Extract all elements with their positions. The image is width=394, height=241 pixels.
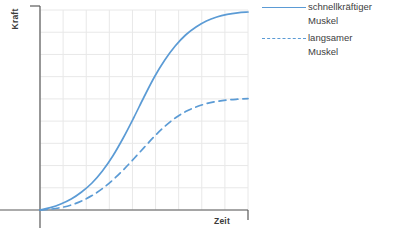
legend-label-fast-muscle-line1: schnellkräftiger: [308, 1, 372, 12]
y-axis-label: Kraft: [10, 0, 20, 39]
series-line-2: [40, 99, 248, 210]
chart-series: [40, 12, 248, 210]
legend-label-slow-muscle-line1: langsamer: [308, 32, 352, 43]
chart-gridlines: [40, 10, 248, 210]
legend-label-slow-muscle: langsamer Muskel: [308, 31, 352, 58]
legend-label-fast-muscle: schnellkräftiger Muskel: [308, 0, 372, 27]
legend-label-fast-muscle-line2: Muskel: [308, 15, 338, 26]
chart-axes: [0, 6, 248, 228]
x-axis-label: Zeit: [214, 216, 230, 226]
legend-label-slow-muscle-line2: Muskel: [308, 46, 338, 57]
chart-figure: Kraft Zeit schnellkräftiger Muskel langs…: [0, 0, 394, 241]
legend-item-fast-muscle[interactable]: schnellkräftiger Muskel: [258, 0, 394, 27]
legend-swatch-dashed-line-icon: [258, 32, 308, 46]
legend-swatch-solid-line-icon: [258, 1, 308, 15]
series-line-1: [40, 12, 248, 210]
legend-item-slow-muscle[interactable]: langsamer Muskel: [258, 31, 394, 58]
chart-legend: schnellkräftiger Muskel langsamer Muskel: [258, 0, 394, 62]
